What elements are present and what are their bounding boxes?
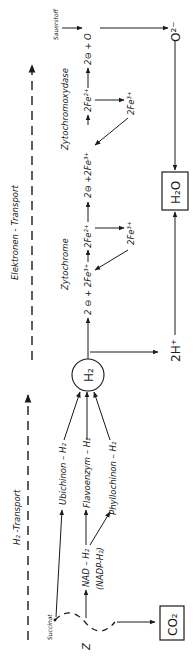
nadp-h2-label: (NADP-H₂)	[95, 547, 105, 590]
sauerstoff-label: Sauerstoff	[52, 8, 59, 40]
succinat-dot	[54, 619, 57, 622]
cytochrome-fe3: 2Fe³⁺	[126, 222, 136, 245]
ubichinon-label: Ubichinon – H₂	[58, 443, 68, 505]
cytochromoxydase-electrons: 2⊖ +2Fe³⁺	[83, 152, 93, 198]
protons-label: 2H⁺	[169, 339, 183, 362]
nad-to-phyllochinon-arrow	[90, 512, 110, 545]
phyllochinon-label: Phyllochinon – H₂	[108, 441, 118, 515]
oxydase-fe3-regenerate-arrow	[95, 118, 128, 145]
co2-label: CO₂	[166, 613, 180, 636]
cytochrome-fe2: 2Fe²⁺	[83, 225, 93, 248]
ubichinon-to-h2-arrow	[64, 392, 80, 440]
h2-transport-label: H₂ -Transport	[12, 489, 22, 545]
substrate-z-curve	[55, 613, 115, 631]
succinat-to-ubichinon-arrow	[56, 510, 62, 617]
phyllochinon-to-h2-arrow	[94, 392, 110, 440]
respiratory-chain-diagram: H₂ -Transport Elektronen - Transport Z S…	[0, 0, 195, 657]
flavoenzym-label: Flavoenzym – H₂	[82, 437, 92, 508]
h2-label: H₂	[82, 368, 96, 382]
cytochromoxydase-label: Zytochromoxydase	[60, 68, 70, 151]
substrate-z: Z	[81, 642, 92, 651]
cytochromoxydase-fe2: 2Fe²⁺	[83, 89, 93, 112]
electrons-plus-oxygen: 2⊖ + O	[83, 33, 93, 65]
oxide-label: O²⁻	[169, 21, 183, 42]
cytochromoxydase-fe3: 2Fe³⁺	[126, 92, 136, 115]
water-label: H₂O	[169, 181, 183, 204]
cytochrome-electrons: 2 ⊖ + 2Fe³⁺	[83, 264, 93, 315]
nad-h2-label: NAD – H₂	[81, 548, 91, 587]
cytochrome-label: Zytochrome	[60, 238, 70, 291]
succinat-label: Succinat	[46, 614, 53, 640]
electron-transport-label: Elektronen - Transport	[10, 184, 20, 280]
cytochrome-fe3-regenerate-arrow	[95, 250, 128, 270]
